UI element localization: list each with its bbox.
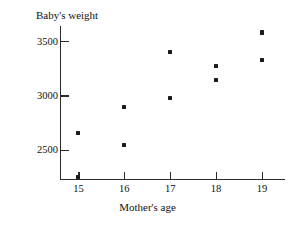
y-tick-mark — [61, 41, 69, 42]
x-tick-label: 15 — [61, 183, 95, 195]
data-point — [214, 64, 218, 68]
data-point — [260, 58, 264, 62]
y-tick-mark — [61, 150, 69, 151]
data-point — [168, 96, 172, 100]
y-tick-label: 3000 — [22, 90, 58, 101]
scatter-chart: Baby's weight 250030003500 1516171819 Mo… — [0, 0, 295, 225]
chart-title: Baby's weight — [36, 8, 98, 22]
x-tick-mark — [262, 172, 263, 180]
x-tick-label: 17 — [153, 183, 187, 195]
x-axis-line — [60, 179, 285, 180]
data-point — [122, 143, 126, 147]
data-point — [168, 50, 172, 54]
y-tick-label: 3500 — [22, 36, 58, 47]
x-tick-mark — [170, 172, 171, 180]
data-point — [260, 30, 264, 34]
x-tick-mark — [124, 172, 125, 180]
y-tick-label: 2500 — [22, 144, 58, 155]
x-tick-mark — [216, 172, 217, 180]
x-tick-label: 18 — [199, 183, 233, 195]
data-point — [214, 78, 218, 82]
x-axis-label: Mother's age — [0, 200, 295, 214]
data-point — [76, 131, 80, 135]
data-point — [122, 105, 126, 109]
y-axis-line — [60, 26, 61, 180]
data-point — [76, 175, 80, 179]
x-tick-label: 16 — [107, 183, 141, 195]
y-tick-mark — [61, 95, 69, 96]
x-tick-label: 19 — [245, 183, 279, 195]
